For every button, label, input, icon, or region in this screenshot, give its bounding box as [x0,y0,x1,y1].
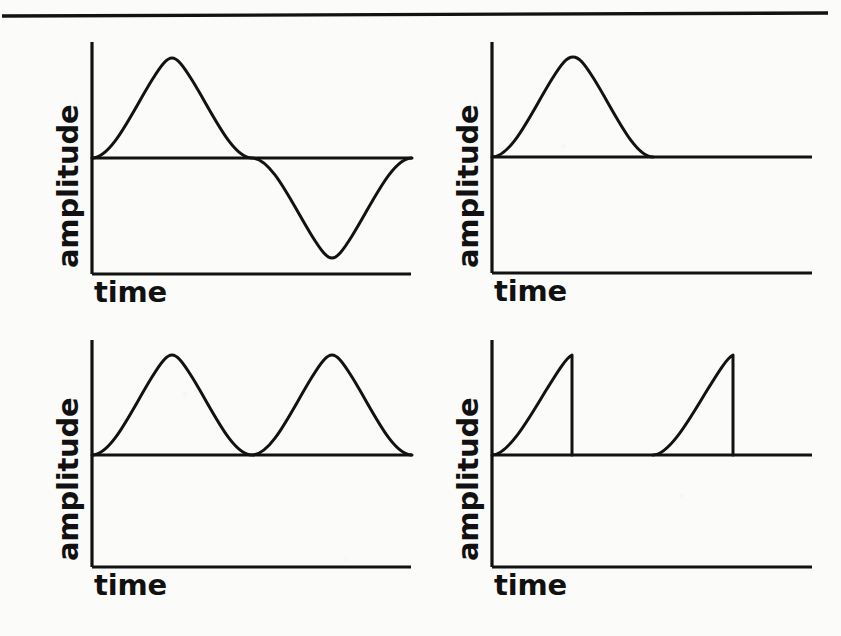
x-axis-label: time [494,568,567,602]
horizontal-rule [2,13,828,16]
y-axis-label: amplitude [451,104,485,268]
y-axis-label: amplitude [451,397,485,561]
panel-bottom-left: amplitude time [51,340,412,602]
ramp-pulse-first [492,355,572,455]
panel-bottom-right: amplitude time [451,340,812,602]
x-axis-label: time [94,275,167,309]
panel-top-right: amplitude time [451,42,812,308]
x-axis-label: time [94,568,167,602]
waveform-figure: amplitude time amplitude time amplitude … [0,0,841,636]
panel-top-left: amplitude time [51,42,412,309]
x-axis-label: time [494,274,567,308]
y-axis-label: amplitude [51,104,85,268]
half-wave-rectified-sine-curve [492,57,653,157]
full-wave-rectified-sine-curve [92,355,412,455]
ramp-pulse-second [653,355,733,455]
y-axis-label: amplitude [51,397,85,561]
